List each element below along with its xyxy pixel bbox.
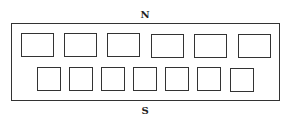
south-row-box-2 <box>69 67 93 91</box>
south-label: S <box>135 105 155 117</box>
north-row-box-5 <box>194 34 227 58</box>
south-row-box-6 <box>197 67 221 91</box>
north-label: N <box>135 9 155 21</box>
north-row-box-4 <box>151 34 184 58</box>
south-row-box-4 <box>133 67 157 91</box>
north-row-box-1 <box>21 33 54 57</box>
south-row-box-5 <box>165 67 189 91</box>
south-row-box-1 <box>37 67 61 91</box>
north-row-box-2 <box>64 33 97 57</box>
north-row-box-3 <box>107 33 140 57</box>
south-row-box-7 <box>230 68 254 92</box>
south-row-box-3 <box>101 67 125 91</box>
north-row-box-6 <box>238 34 271 58</box>
